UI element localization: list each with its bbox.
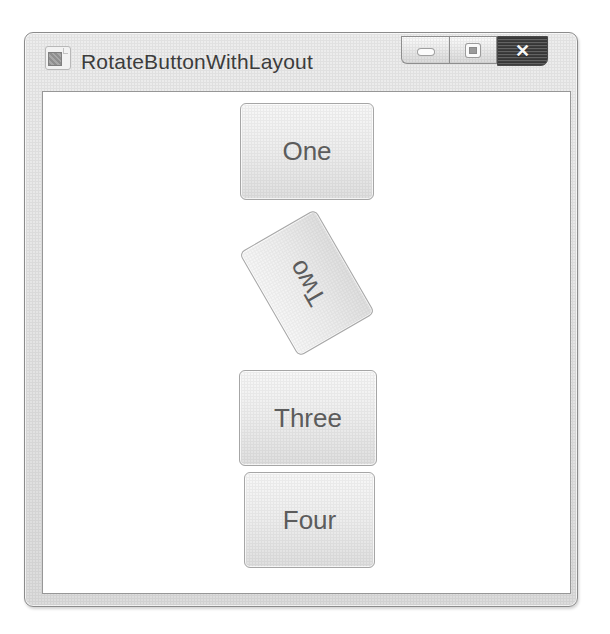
caption-button-group: ✕ [401,36,548,66]
button-four-label: Four [283,505,336,536]
button-two-rotated[interactable]: Two [239,209,375,357]
close-button[interactable]: ✕ [497,36,548,66]
screenshot-canvas: RotateButtonWithLayout ✕ One Two [0,0,610,634]
app-icon-fold [63,48,68,54]
client-area: One Two Three Four [42,91,571,594]
maximize-icon [466,44,480,57]
app-window: RotateButtonWithLayout ✕ One Two [24,32,578,607]
minimize-button[interactable] [401,36,449,64]
button-four[interactable]: Four [244,472,375,568]
app-icon-square [48,52,62,66]
minimize-icon [418,49,434,55]
maximize-button[interactable] [449,36,497,64]
app-window-icon [45,46,71,70]
title-bar[interactable]: RotateButtonWithLayout ✕ [25,33,577,91]
button-one-label: One [282,136,331,167]
button-one[interactable]: One [240,103,374,200]
window-title: RotateButtonWithLayout [81,33,313,91]
button-three-label: Three [274,403,342,434]
close-icon: ✕ [515,40,530,62]
button-three[interactable]: Three [239,370,377,466]
button-two-label: Two [282,255,333,312]
